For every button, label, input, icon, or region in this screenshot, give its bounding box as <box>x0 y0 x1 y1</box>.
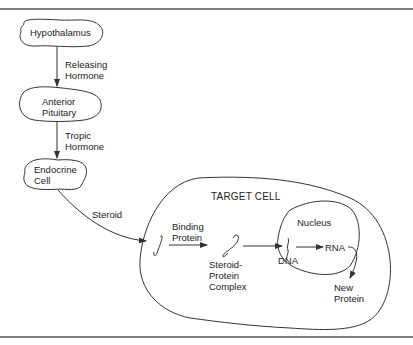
anterior-pituitary-label: Anterior Pituitary <box>42 96 76 118</box>
tropic-hormone-label: Tropic Hormone <box>65 130 104 152</box>
new-protein-label: New Protein <box>334 282 364 304</box>
dna-label: DNA <box>278 255 298 266</box>
releasing-hormone-label: Releasing Hormone <box>65 59 107 81</box>
complex-squiggle <box>223 235 239 257</box>
binding-protein-label: Binding Protein <box>172 221 204 243</box>
steroid-label: Steroid <box>92 209 122 220</box>
endocrine-cell-label: Endocrine Cell <box>34 164 77 186</box>
nucleus-label: Nucleus <box>297 217 331 228</box>
steroid-protein-complex-label: Steroid- Protein Complex <box>209 259 247 292</box>
steroid-hormone-diagram: Hypothalamus Releasing Hormone Anterior … <box>0 0 413 345</box>
hypothalamus-label: Hypothalamus <box>30 27 91 38</box>
rna-label: RNA <box>325 242 345 253</box>
target-cell-title: TARGET CELL <box>211 191 281 202</box>
steroid-squiggle <box>154 236 162 256</box>
